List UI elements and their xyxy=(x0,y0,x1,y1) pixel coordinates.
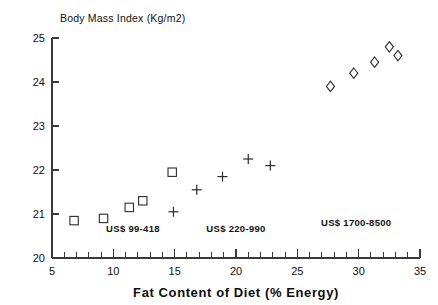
x-tick-label: 5 xyxy=(49,265,55,277)
x-tick-label: 20 xyxy=(230,265,242,277)
bmi-vs-fat-scatter-chart: Body Mass Index (Kg/m2) 202122232425 510… xyxy=(0,0,438,305)
x-axis-title: Fat Content of Diet (% Energy) xyxy=(133,285,339,300)
x-tick-label: 10 xyxy=(107,265,119,277)
x-tick-label: 25 xyxy=(291,265,303,277)
y-tick-label: 21 xyxy=(33,208,45,220)
series-annotation-label: US$ 99-418 xyxy=(106,223,160,234)
chart-background xyxy=(0,0,438,305)
y-tick-label: 22 xyxy=(33,164,45,176)
x-tick-label: 30 xyxy=(353,265,365,277)
y-tick-label: 24 xyxy=(33,76,45,88)
y-tick-label: 25 xyxy=(33,32,45,44)
series-annotation-label: US$ 220-990 xyxy=(206,223,265,234)
y-tick-label: 23 xyxy=(33,120,45,132)
series-annotation-label: US$ 1700-8500 xyxy=(321,217,391,228)
x-tick-label: 35 xyxy=(414,265,426,277)
x-tick-label: 15 xyxy=(169,265,181,277)
y-axis-title: Body Mass Index (Kg/m2) xyxy=(60,12,185,24)
y-tick-label: 20 xyxy=(33,252,45,264)
chart-figure: Body Mass Index (Kg/m2) 202122232425 510… xyxy=(0,0,438,305)
